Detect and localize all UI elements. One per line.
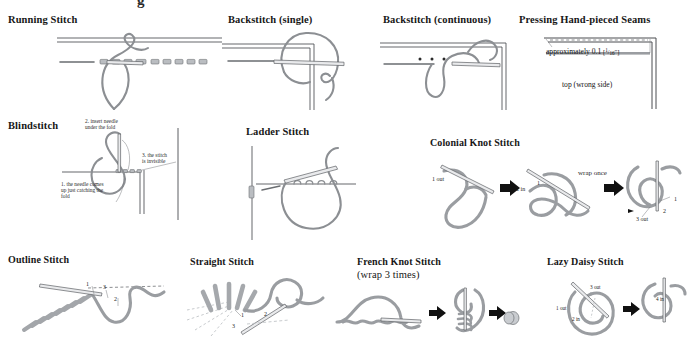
diagram-running-stitch [52, 32, 232, 110]
colonial-label-1c: 1 [674, 196, 677, 203]
outline-label-3: 3 [103, 284, 106, 291]
panel-lazy-daisy-stitch: Lazy Daisy Stitch [547, 256, 624, 268]
panel-subtitle-french-knot-stitch: (wrap 3 times) [357, 269, 441, 281]
panel-backstitch-single: Backstitch (single) [228, 14, 312, 26]
panel-title-lazy-daisy-stitch: Lazy Daisy Stitch [547, 256, 624, 268]
panel-title-ladder-stitch: Ladder Stitch [246, 126, 309, 138]
seam-side-note: top (wrong side) [562, 80, 612, 89]
panel-title-outline-stitch: Outline Stitch [8, 254, 69, 266]
diagram-ladder-stitch [240, 146, 410, 240]
outline-label-1: 1 [86, 281, 89, 288]
colonial-label-2-in: 2 in [516, 186, 525, 193]
straight-label-1: 1 [241, 312, 244, 319]
diagram-straight-stitch [185, 272, 335, 340]
lazy-daisy-label-4-in: 4 in [656, 296, 664, 303]
lazy-daisy-label-3-out: 3 out [590, 284, 601, 291]
diagram-backstitch-single [222, 30, 382, 110]
diagram-backstitch-continuous [380, 30, 545, 110]
blindstitch-note-1: 1. the needle comes up just catching the… [61, 181, 104, 200]
diagram-french-knot-stitch [337, 288, 517, 340]
panel-title-french-knot-stitch: French Knot Stitch [357, 256, 441, 268]
panel-title-running-stitch: Running Stitch [8, 14, 77, 26]
cropped-glyph-top: g [137, 0, 145, 9]
lazy-daisy-label-2-in: 2 in [572, 316, 580, 323]
colonial-label-wrap-once: wrap once [578, 170, 607, 177]
panel-title-blindstitch: Blindstitch [8, 120, 58, 132]
colonial-label-1b: 1 [537, 180, 540, 187]
diagram-colonial-knot-stitch [424, 155, 682, 235]
diagram-blindstitch [62, 128, 222, 220]
straight-label-3: 3 [232, 323, 235, 330]
panel-french-knot-stitch: French Knot Stitch (wrap 3 times) [357, 256, 441, 281]
panel-running-stitch: Running Stitch [8, 14, 77, 26]
panel-blindstitch: Blindstitch [8, 120, 58, 132]
blindstitch-note-3: 3. the stitch is invisible [142, 152, 167, 164]
outline-label-2: 2 [114, 296, 117, 303]
lazy-daisy-label-1-out: 1 out [556, 305, 567, 312]
diagram-lazy-daisy-stitch [551, 274, 687, 340]
panel-backstitch-continuous: Backstitch (continuous) [383, 14, 491, 26]
panel-title-backstitch-single: Backstitch (single) [228, 14, 312, 26]
seam-measure-label: approximately 0.1 [1/16"] [546, 47, 619, 56]
straight-label-2: 2 [264, 311, 267, 318]
blindstitch-note-2: 2. insert needle under the fold [85, 118, 118, 130]
colonial-label-3-out: 3 out [636, 216, 648, 223]
diagram-outline-stitch [18, 272, 178, 340]
panel-straight-stitch: Straight Stitch [190, 256, 254, 268]
panel-title-straight-stitch: Straight Stitch [190, 256, 254, 268]
panel-title-backstitch-continuous: Backstitch (continuous) [383, 14, 491, 26]
panel-ladder-stitch: Ladder Stitch [246, 126, 309, 138]
colonial-label-1-out: 1 out [432, 176, 444, 183]
panel-colonial-knot-stitch: Colonial Knot Stitch [430, 137, 520, 149]
panel-title-pressing-hand-pieced-seams: Pressing Hand-pieced Seams [519, 14, 650, 26]
panel-title-colonial-knot-stitch: Colonial Knot Stitch [430, 137, 520, 149]
diagram-pressing-hand-pieced-seams [522, 33, 682, 109]
panel-pressing-hand-pieced-seams: Pressing Hand-pieced Seams [519, 14, 650, 26]
colonial-label-2b: 2 [663, 208, 666, 215]
panel-outline-stitch: Outline Stitch [8, 254, 69, 266]
